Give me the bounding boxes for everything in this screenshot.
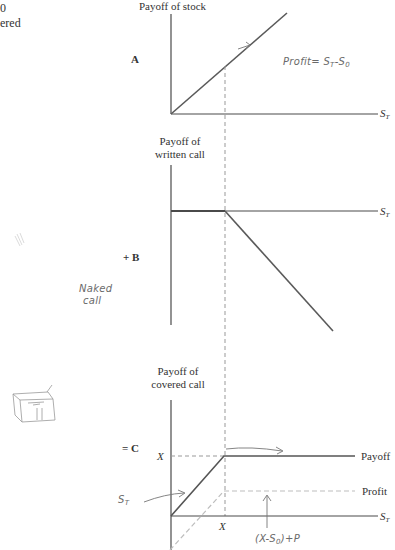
naked-call-annotation: Naked call: [79, 283, 112, 307]
panel-a-x-axis-label: ST: [380, 107, 389, 124]
x-tick-x-label: X: [219, 520, 226, 533]
panel-b-title: Payoff of written call: [142, 135, 218, 161]
panel-b-written-call: [171, 165, 378, 331]
covered-call-diagram: [0, 0, 395, 550]
panel-b-letter: + B: [123, 251, 139, 264]
handdrawn-arrow-up-icon: [263, 495, 271, 528]
pencil-doodle-box: [13, 385, 55, 422]
panel-b-x-axis-label: ST: [380, 205, 389, 222]
panel-a-title: Payoff of stock: [139, 0, 206, 13]
st-annotation: ST: [118, 494, 129, 509]
handdrawn-arrow-icon: [238, 42, 250, 49]
handdrawn-arrow-st-icon: [144, 490, 185, 502]
written-call-payoff-line: [225, 211, 333, 331]
cut-text-line-1: 0: [0, 2, 6, 15]
handdrawn-arrow-right-icon: [226, 447, 283, 454]
profit-legend-label: Profit: [362, 485, 387, 498]
pencil-scribble: [15, 233, 24, 246]
panel-c-covered-call: [144, 400, 378, 550]
profit-formula-annotation: Profit= ST-S0: [283, 56, 350, 71]
y-tick-x-label: X: [157, 450, 164, 463]
payoff-legend-label: Payoff: [361, 450, 390, 463]
covered-call-payoff-line: [171, 456, 355, 516]
stock-payoff-line: [171, 13, 287, 114]
cut-text-line-2: ered: [0, 17, 21, 30]
panel-c-letter: = C: [122, 442, 139, 455]
panel-c-x-axis-label: ST: [380, 510, 389, 527]
profit-formula-bottom-annotation: (X-S0)+P: [255, 533, 300, 548]
panel-a-letter: A: [131, 53, 139, 66]
panel-c-title: Payoff of covered call: [138, 365, 218, 391]
